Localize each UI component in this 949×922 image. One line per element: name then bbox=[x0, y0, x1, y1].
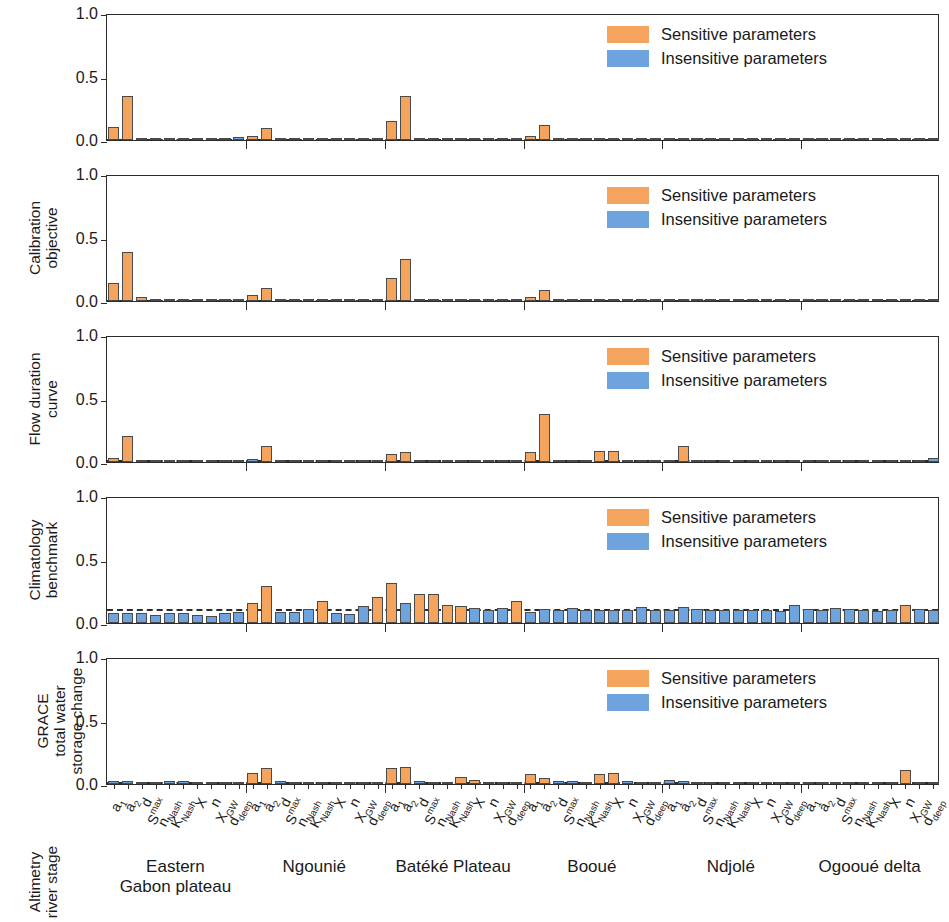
bar bbox=[775, 299, 786, 301]
bar bbox=[719, 782, 730, 784]
bar bbox=[275, 138, 286, 140]
y-tick-mark bbox=[101, 303, 107, 304]
bar bbox=[622, 138, 633, 140]
bar bbox=[372, 138, 383, 140]
bar bbox=[705, 460, 716, 462]
bar bbox=[886, 782, 897, 784]
y-tick-label: 1.0 bbox=[54, 488, 98, 506]
bar bbox=[886, 460, 897, 462]
bar bbox=[636, 607, 647, 623]
bar bbox=[317, 460, 328, 462]
bar bbox=[455, 606, 466, 623]
x-tick-mark bbox=[114, 784, 115, 789]
bar bbox=[122, 436, 133, 462]
bar bbox=[622, 299, 633, 301]
bar bbox=[803, 138, 814, 140]
bar bbox=[650, 782, 661, 784]
bar bbox=[900, 460, 911, 462]
bar bbox=[233, 460, 244, 462]
bar bbox=[219, 138, 230, 140]
bar bbox=[372, 460, 383, 462]
x-group-divider-tick bbox=[801, 784, 802, 793]
bar bbox=[580, 299, 591, 301]
bar bbox=[858, 138, 869, 140]
bar bbox=[136, 460, 147, 462]
x-group-divider-tick bbox=[662, 301, 663, 310]
bar bbox=[608, 773, 619, 784]
x-axis-tick-labels: a1a2dSmaxnNashKNashXnXGWddeepa1a2dSmaxnN… bbox=[0, 795, 941, 865]
bar bbox=[914, 460, 925, 462]
bar bbox=[358, 606, 369, 623]
bar bbox=[108, 127, 119, 140]
y-tick-label: 0.5 bbox=[54, 713, 98, 731]
bar bbox=[872, 299, 883, 301]
x-tick-mark bbox=[128, 784, 129, 789]
bar bbox=[539, 125, 550, 140]
bar bbox=[317, 138, 328, 140]
bar bbox=[733, 299, 744, 301]
bar bbox=[386, 768, 397, 785]
bar bbox=[858, 299, 869, 301]
x-tick-mark bbox=[322, 784, 323, 789]
x-tick-mark bbox=[530, 784, 531, 789]
bar bbox=[233, 137, 244, 140]
bar bbox=[150, 615, 161, 623]
bar bbox=[650, 299, 661, 301]
bar bbox=[344, 782, 355, 784]
x-tick-mark bbox=[183, 784, 184, 789]
x-group-divider-tick bbox=[385, 140, 386, 149]
x-tick-mark bbox=[614, 784, 615, 789]
x-tick-mark bbox=[253, 784, 254, 789]
bar bbox=[775, 460, 786, 462]
bar bbox=[442, 605, 453, 623]
y-tick-mark bbox=[101, 659, 107, 660]
bar bbox=[567, 781, 578, 784]
bar bbox=[650, 610, 661, 623]
x-tick-mark bbox=[642, 784, 643, 789]
bar bbox=[650, 460, 661, 462]
y-tick-mark bbox=[101, 79, 107, 80]
bar bbox=[636, 299, 647, 301]
x-tick-mark bbox=[475, 784, 476, 789]
bar bbox=[914, 138, 925, 140]
legend-item-sensitive: Sensitive parameters bbox=[607, 25, 827, 44]
bar bbox=[275, 460, 286, 462]
bar bbox=[150, 138, 161, 140]
x-tick-mark bbox=[364, 784, 365, 789]
bar bbox=[594, 451, 605, 462]
bar bbox=[789, 782, 800, 784]
bar bbox=[122, 613, 133, 623]
bar bbox=[428, 460, 439, 462]
bar bbox=[261, 768, 272, 784]
bar bbox=[344, 299, 355, 301]
bar bbox=[261, 288, 272, 301]
bar bbox=[733, 782, 744, 784]
x-tick-mark bbox=[864, 784, 865, 789]
x-tick-mark bbox=[933, 784, 934, 789]
bar bbox=[178, 781, 189, 784]
bar bbox=[608, 138, 619, 140]
legend-item-sensitive: Sensitive parameters bbox=[607, 508, 827, 527]
bar bbox=[580, 138, 591, 140]
legend-item-insensitive: Insensitive parameters bbox=[607, 532, 827, 551]
x-group-divider-tick bbox=[385, 623, 386, 632]
x-group-divider-tick bbox=[524, 301, 525, 310]
bar bbox=[469, 780, 480, 784]
legend-label-insensitive: Insensitive parameters bbox=[661, 49, 827, 68]
bar bbox=[303, 460, 314, 462]
x-tick-mark bbox=[919, 784, 920, 789]
x-tick-mark bbox=[850, 784, 851, 789]
legend-swatch-insensitive bbox=[607, 50, 649, 67]
bar bbox=[664, 138, 675, 140]
bar bbox=[428, 138, 439, 140]
bar bbox=[678, 299, 689, 301]
x-group-divider-tick bbox=[385, 462, 386, 471]
bar bbox=[192, 615, 203, 623]
bar bbox=[497, 608, 508, 623]
bar bbox=[650, 138, 661, 140]
bar bbox=[331, 460, 342, 462]
bar bbox=[928, 782, 939, 784]
x-tick-mark bbox=[572, 784, 573, 789]
x-tick-mark bbox=[350, 784, 351, 789]
y-tick-mark bbox=[101, 15, 107, 16]
